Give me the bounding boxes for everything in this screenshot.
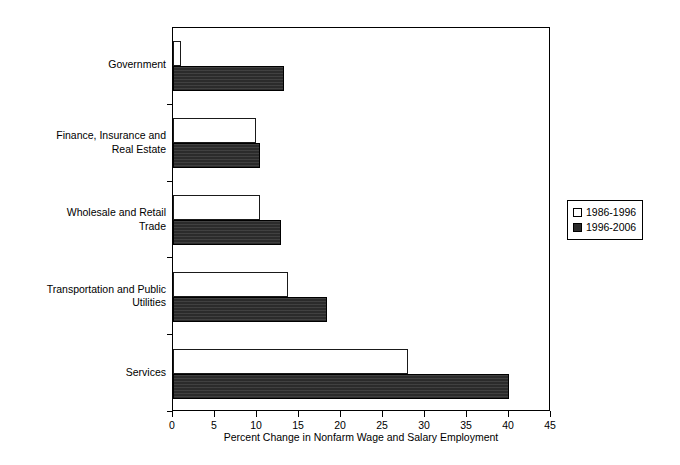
- bar-bands: [173, 28, 549, 410]
- bar-series2: [173, 143, 260, 168]
- x-axis-tick: [256, 411, 257, 417]
- bar-series2: [173, 66, 284, 91]
- x-axis-tick: [466, 411, 467, 417]
- x-axis-tick: [508, 411, 509, 417]
- bar-series2: [173, 374, 509, 399]
- bar-series2: [173, 297, 327, 322]
- bar-series1: [173, 272, 288, 297]
- legend-label-1986-1996: 1986-1996: [586, 206, 636, 219]
- x-axis-tick: [424, 411, 425, 417]
- x-axis-tick: [550, 411, 551, 417]
- bar-group: [173, 28, 549, 105]
- bar-chart: GovernmentFinance, Insurance and Real Es…: [0, 0, 680, 465]
- legend-swatch-icon-1986-1996: [573, 208, 582, 217]
- plot-area: [172, 27, 550, 411]
- y-axis-tick: [167, 257, 173, 258]
- legend-swatch-icon-1996-2006: [573, 223, 582, 232]
- y-axis-label: Government: [16, 59, 166, 73]
- legend-label-1996-2006: 1996-2006: [586, 221, 636, 234]
- bar-group: [173, 105, 549, 182]
- y-axis-tick: [167, 104, 173, 105]
- y-axis-label: Transportation and Public Utilities: [16, 282, 166, 309]
- legend-item-1996-2006: 1996-2006: [573, 220, 636, 235]
- bar-series1: [173, 41, 181, 66]
- y-axis-label: Finance, Insurance and Real Estate: [16, 129, 166, 156]
- x-axis-tick: [214, 411, 215, 417]
- x-axis-tick: [382, 411, 383, 417]
- x-axis-tick: [298, 411, 299, 417]
- legend: 1986-1996 1996-2006: [567, 200, 643, 240]
- bar-group: [173, 258, 549, 335]
- x-axis-tick: [340, 411, 341, 417]
- bar-series1: [173, 118, 256, 143]
- y-axis-tick: [167, 334, 173, 335]
- y-axis-tick: [167, 181, 173, 182]
- x-axis-tick: [172, 411, 173, 417]
- bar-series2: [173, 220, 281, 245]
- y-axis-label: Services: [16, 366, 166, 380]
- bar-group: [173, 182, 549, 259]
- x-axis-title: Percent Change in Nonfarm Wage and Salar…: [172, 431, 550, 444]
- bar-group: [173, 335, 549, 412]
- bar-series1: [173, 349, 408, 374]
- legend-item-1986-1996: 1986-1996: [573, 205, 636, 220]
- bar-series1: [173, 195, 260, 220]
- y-axis-label: Wholesale and Retail Trade: [16, 206, 166, 233]
